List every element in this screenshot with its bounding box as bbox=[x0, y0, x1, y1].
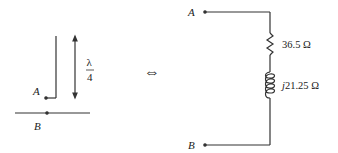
arrow-head-up-icon bbox=[73, 36, 77, 41]
reactance-value-label: j21.25 Ω bbox=[280, 80, 319, 91]
equivalence-arrow-icon: ⇔ bbox=[144, 63, 160, 80]
terminal-a-dot bbox=[45, 97, 47, 99]
length-numerator: λ bbox=[87, 56, 93, 68]
arrow-head-down-icon bbox=[73, 93, 77, 98]
circuit-terminal-a-label: A bbox=[187, 6, 195, 18]
left-terminal-b-label: B bbox=[34, 120, 41, 132]
equivalent-circuit bbox=[204, 11, 275, 146]
quarter-wave-monopole bbox=[15, 36, 94, 114]
resistor-symbol bbox=[267, 33, 273, 55]
length-denominator: 4 bbox=[87, 71, 93, 83]
monopole-equivalent-circuit-diagram: A B λ 4 ⇔ A B 36.5 Ω j21.25 Ω bbox=[0, 0, 338, 153]
reactance-value: 21.25 Ω bbox=[285, 80, 319, 91]
circuit-terminal-b-dot bbox=[204, 144, 206, 146]
resistor-value-label: 36.5 Ω bbox=[282, 39, 311, 50]
inductor-coil-symbol bbox=[266, 72, 275, 98]
terminal-b-dot bbox=[46, 112, 48, 114]
left-terminal-a-label: A bbox=[32, 85, 40, 97]
circuit-terminal-b-label: B bbox=[188, 139, 195, 151]
